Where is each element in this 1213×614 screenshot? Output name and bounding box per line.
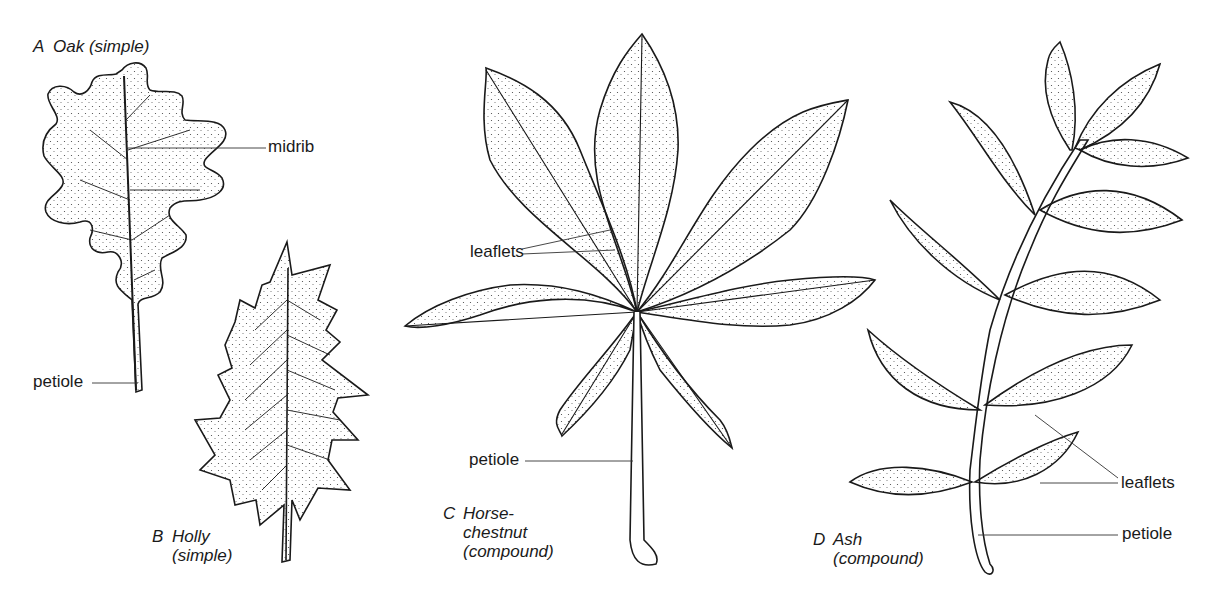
caption-line: (simple) [152, 546, 232, 565]
ash-leaf [850, 42, 1188, 574]
caption-horse-chestnut: CHorse- chestnut (compound) [443, 504, 554, 561]
label-oak-midrib: midrib [268, 137, 314, 157]
oak-leaf [43, 63, 226, 392]
horse-chestnut-leaf [405, 34, 875, 565]
holly-leaf [195, 242, 368, 562]
caption-oak: AOak (simple) [33, 37, 149, 56]
caption-line: Ash [833, 530, 862, 549]
panel-letter: B [152, 527, 172, 546]
caption-line: Holly [172, 527, 210, 546]
panel-letter: A [33, 37, 53, 56]
caption-holly: BHolly (simple) [152, 527, 232, 565]
label-ash-petiole: petiole [1122, 524, 1172, 544]
label-ash-leaflets: leaflets [1121, 473, 1175, 493]
caption-line: chestnut [443, 523, 554, 542]
caption-line: Oak (simple) [53, 37, 149, 56]
label-oak-petiole: petiole [33, 372, 83, 392]
caption-line: Horse- [463, 504, 514, 523]
caption-line: (compound) [443, 542, 554, 561]
panel-letter: C [443, 504, 463, 523]
caption-line: (compound) [813, 549, 924, 568]
label-horse-chestnut-leaflets: leaflets [470, 242, 524, 262]
panel-letter: D [813, 530, 833, 549]
caption-ash: DAsh (compound) [813, 530, 924, 568]
leaf-illustrations [0, 0, 1213, 614]
label-horse-chestnut-petiole: petiole [469, 450, 519, 470]
